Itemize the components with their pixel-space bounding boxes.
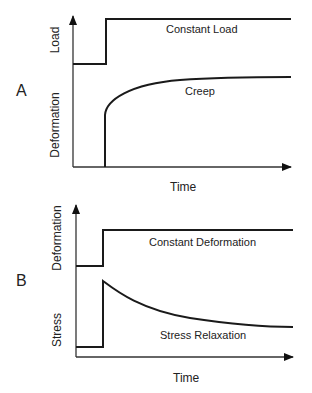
panel-a-xlabel: Time <box>170 180 197 194</box>
panel-b: B Deformation Stress Constant Deformatio… <box>16 205 293 385</box>
panel-a-lower-ylabel: Deformation <box>48 92 62 157</box>
panel-b-label: B <box>16 272 27 289</box>
panel-a-lower-curve-label: Creep <box>185 85 215 97</box>
panel-a-label: A <box>16 82 27 99</box>
panel-b-xlabel: Time <box>173 371 200 385</box>
panel-b-upper-curve-label: Constant Deformation <box>149 236 256 248</box>
panel-b-lower-curve-label: Stress Relaxation <box>160 329 246 341</box>
panel-a-upper-curve-label: Constant Load <box>166 23 238 35</box>
panel-a-upper-ylabel: Load <box>48 27 62 54</box>
viscoelasticity-diagram: A Load Deformation Constant Load Creep T… <box>0 0 312 393</box>
panel-b-upper-ylabel: Deformation <box>50 205 64 270</box>
panel-a: A Load Deformation Constant Load Creep T… <box>16 16 291 194</box>
panel-b-lower-ylabel: Stress <box>50 313 64 347</box>
